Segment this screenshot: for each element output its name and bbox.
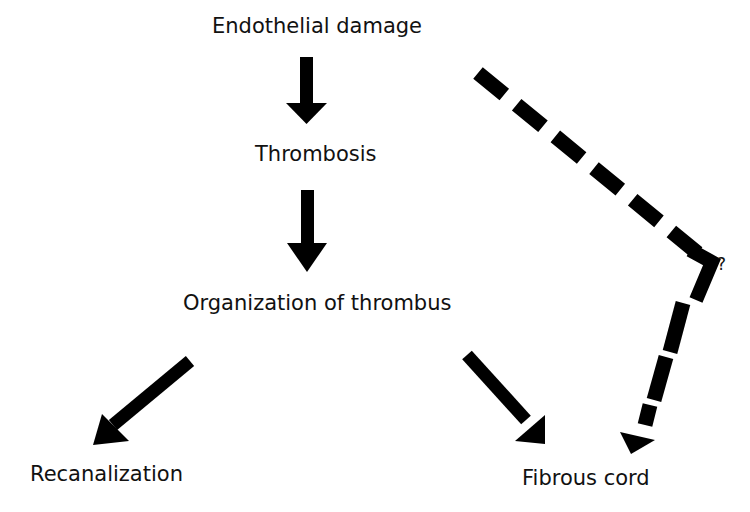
uncertain-path-question-mark: ?: [717, 256, 726, 273]
arrow-endothelial-to-thrombosis: [286, 57, 327, 124]
diagram-canvas: Endothelial damage Thrombosis Organizati…: [0, 0, 750, 512]
node-organization-of-thrombus: Organization of thrombus: [183, 293, 451, 314]
node-endothelial-damage: Endothelial damage: [212, 16, 422, 37]
node-recanalization: Recanalization: [30, 464, 183, 485]
node-thrombosis: Thrombosis: [255, 144, 377, 165]
arrow-organization-to-fibrous-cord: [467, 355, 545, 444]
arrows-layer: [0, 0, 750, 512]
node-fibrous-cord: Fibrous cord: [522, 468, 650, 489]
arrow-organization-to-recanalization: [93, 361, 190, 445]
arrow-thrombosis-to-organization: [287, 190, 327, 272]
